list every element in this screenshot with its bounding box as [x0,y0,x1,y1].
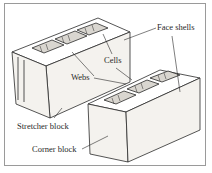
label-stretcher-block: Stretcher block [17,122,69,131]
label-corner-block: Corner block [32,145,77,154]
label-face-shells: Face shells [157,23,195,32]
label-cells: Cells [104,56,121,65]
label-webs: Webs [71,73,90,82]
